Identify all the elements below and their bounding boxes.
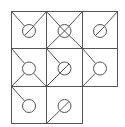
tile-r0-c0 [12,12,47,49]
connector-line-bl-center [47,73,60,86]
connector-line-br-center [34,73,47,86]
tile-r1-c2 [83,49,118,87]
circle-x-icon [58,25,71,38]
connector-line-tl-center [47,12,61,27]
tile-grid [12,12,118,124]
connector-line-tl-center [47,49,61,64]
connector-line-tr-center [69,12,83,27]
connector-line-tl-center [12,12,25,27]
circle-icon [94,62,107,75]
connector-line-tr-center [33,12,46,27]
tile-r0-c2 [83,12,118,49]
connector-line-bl-center [12,73,25,86]
circle-slash-icon [94,25,107,38]
tile-r1-c0 [12,49,47,87]
circle-icon [23,62,36,75]
tile-r1-c1 [47,49,83,87]
tile-r2-c1 [47,87,83,124]
circle-slash-icon [23,25,36,38]
circle-slash-icon [58,62,71,75]
connector-line-tl-center [12,49,25,64]
circle-slash-icon [58,100,71,113]
tile-diagram [0,0,125,127]
circle-icon [23,100,36,113]
connector-line-tl-center [12,87,25,102]
tile-r0-c1 [47,12,83,49]
connector-line-bl-center [83,73,96,86]
connector-line-tl-center [83,49,96,64]
connector-line-bl-center [47,111,60,124]
connector-line-br-center [69,36,82,49]
connector-line-bl-center [47,36,60,49]
tile-r2-c0 [12,87,47,124]
connector-line-tr-center [104,12,117,27]
